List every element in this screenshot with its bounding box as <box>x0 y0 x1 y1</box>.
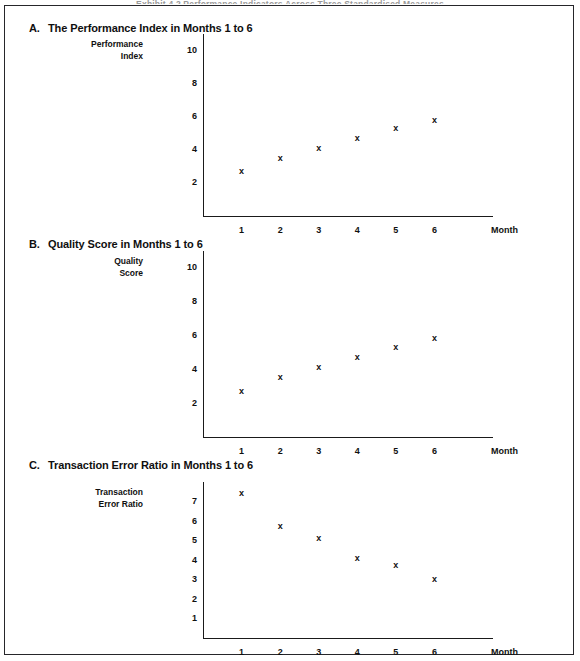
chart-c-y-tick-5: 5 <box>175 536 197 545</box>
data-point: x <box>315 144 323 153</box>
chart-c-x-tick-2: 2 <box>272 648 288 657</box>
chart-b-x-tick-2: 2 <box>272 447 288 456</box>
chart-c-x-tick-3: 3 <box>311 648 327 657</box>
chart-a-x-tick-1: 1 <box>234 226 250 235</box>
data-point: x <box>238 167 246 176</box>
chart-a-x-tick-3: 3 <box>311 226 327 235</box>
chart-c-x-axis-line <box>203 638 493 639</box>
chart-c-x-tick-6: 6 <box>426 648 442 657</box>
chart-b-y-tick-10: 10 <box>175 263 197 272</box>
chart-b-x-axis-label: Month <box>491 447 518 456</box>
chart-c-heading: C.Transaction Error Ratio in Months 1 to… <box>29 459 253 471</box>
chart-c-y-tick-1: 1 <box>175 614 197 623</box>
chart-a-heading: A.The Performance Index in Months 1 to 6 <box>29 22 253 34</box>
chart-b-x-tick-3: 3 <box>311 447 327 456</box>
data-point: x <box>238 387 246 396</box>
chart-a-y-tick-10: 10 <box>175 46 197 55</box>
chart-c-y-axis-title: Transaction Error Ratio <box>75 487 143 510</box>
data-point: x <box>238 489 246 498</box>
chart-c-y-tick-6: 6 <box>175 517 197 526</box>
chart-c-x-tick-1: 1 <box>234 648 250 657</box>
chart-a-y-tick-2: 2 <box>175 178 197 187</box>
chart-b-y-axis-line <box>203 251 204 438</box>
chart-a-y-tick-6: 6 <box>175 112 197 121</box>
chart-b-heading: B.Quality Score in Months 1 to 6 <box>29 238 203 250</box>
chart-c-letter: C. <box>29 459 48 471</box>
chart-a-letter: A. <box>29 22 48 34</box>
chart-b-y-tick-4: 4 <box>175 365 197 374</box>
chart-b-x-tick-1: 1 <box>234 447 250 456</box>
chart-a-x-axis-label: Month <box>491 226 518 235</box>
data-point: x <box>392 343 400 352</box>
chart-a-title: The Performance Index in Months 1 to 6 <box>48 22 253 34</box>
chart-a-x-tick-6: 6 <box>426 226 442 235</box>
chart-b-x-tick-6: 6 <box>426 447 442 456</box>
data-point: x <box>315 534 323 543</box>
chart-c-x-tick-4: 4 <box>349 648 365 657</box>
data-point: x <box>353 353 361 362</box>
chart-b-x-tick-4: 4 <box>349 447 365 456</box>
chart-c-y-axis-line <box>203 482 204 639</box>
chart-c-y-tick-3: 3 <box>175 575 197 584</box>
chart-a-x-tick-5: 5 <box>388 226 404 235</box>
chart-b-x-tick-5: 5 <box>388 447 404 456</box>
chart-a-y-axis-line <box>203 34 204 217</box>
data-point: x <box>353 134 361 143</box>
chart-c-y-tick-7: 7 <box>175 497 197 506</box>
data-point: x <box>276 522 284 531</box>
data-point: x <box>276 373 284 382</box>
chart-b-title: Quality Score in Months 1 to 6 <box>48 238 203 250</box>
chart-c-title: Transaction Error Ratio in Months 1 to 6 <box>48 459 253 471</box>
data-point: x <box>430 116 438 125</box>
cut-off-page-title: Exhibit 4.2 Performance Indicators Acros… <box>0 0 580 4</box>
data-point: x <box>392 124 400 133</box>
chart-a-x-axis-line <box>203 216 493 217</box>
chart-c-x-axis-label: Month <box>491 648 518 657</box>
data-point: x <box>353 554 361 563</box>
data-point: x <box>430 575 438 584</box>
chart-c-y-tick-4: 4 <box>175 556 197 565</box>
chart-b-x-axis-line <box>203 437 493 438</box>
data-point: x <box>315 363 323 372</box>
data-point: x <box>392 561 400 570</box>
chart-a-y-tick-4: 4 <box>175 145 197 154</box>
chart-a-y-axis-title: Performance Index <box>81 39 143 62</box>
chart-b-letter: B. <box>29 238 48 250</box>
chart-a-y-tick-8: 8 <box>175 79 197 88</box>
chart-a-x-tick-2: 2 <box>272 226 288 235</box>
data-point: x <box>276 154 284 163</box>
chart-c-x-tick-5: 5 <box>388 648 404 657</box>
chart-c-y-tick-2: 2 <box>175 595 197 604</box>
chart-b-y-tick-2: 2 <box>175 399 197 408</box>
figure-panel: A.The Performance Index in Months 1 to 6… <box>4 5 574 655</box>
chart-b-y-tick-8: 8 <box>175 297 197 306</box>
chart-b-y-tick-6: 6 <box>175 331 197 340</box>
chart-a-x-tick-4: 4 <box>349 226 365 235</box>
chart-b-y-axis-title: Quality Score <box>81 256 143 279</box>
data-point: x <box>430 334 438 343</box>
